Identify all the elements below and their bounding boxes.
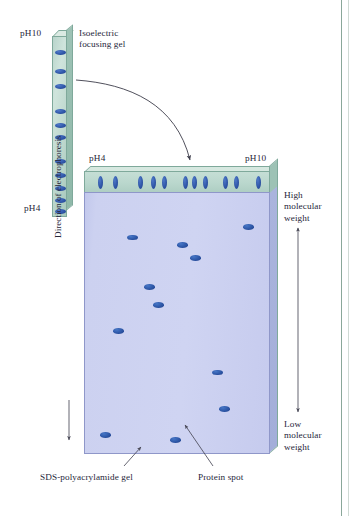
page-edge-rule-outer (341, 0, 342, 516)
protein-spot (100, 432, 111, 438)
direction-of-electrophoresis-label: Direction of electrophoresis (53, 58, 63, 238)
sds-gel-side-face (269, 158, 278, 454)
ief-lane-band (138, 176, 143, 189)
sds-gel-ph10-label: pH10 (245, 153, 266, 163)
ief-lane-band (223, 176, 228, 189)
ief-lane-band (203, 176, 208, 189)
ief-band (55, 50, 66, 55)
protein-spot (113, 328, 124, 334)
sds-gel-separation-area (84, 192, 270, 454)
protein-spot (127, 235, 138, 241)
ief-strip-side-face (66, 24, 73, 211)
ief-lane-band (98, 176, 103, 189)
ief-lane-band (113, 176, 118, 189)
high-molecular-weight-label: High molecular weight (284, 190, 322, 224)
transfer-curved-arrow (76, 80, 190, 160)
protein-spot (144, 284, 155, 290)
ief-lane-band (234, 176, 239, 189)
sds-gel-ief-lane (84, 171, 270, 193)
ief-lane-band (192, 176, 197, 189)
protein-spot (243, 224, 254, 230)
protein-spot (190, 255, 201, 261)
low-molecular-weight-label: Low molecular weight (284, 419, 322, 453)
sds-polyacrylamide-gel-label: SDS-polyacrylamide gel (40, 472, 133, 483)
protein-spot (212, 370, 223, 376)
sds-gel-ph4-label: pH4 (89, 153, 105, 163)
isoelectric-focusing-gel-label: Isoelectric focusing gel (79, 28, 125, 51)
protein-spot-label: Protein spot (198, 472, 243, 483)
ief-lane-band (162, 176, 167, 189)
protein-spot (219, 406, 230, 412)
page-edge-rule-inner (348, 0, 349, 516)
ief-ph4-label: pH4 (24, 203, 40, 213)
sds-polyacrylamide-gel-slab (84, 166, 280, 461)
protein-spot (177, 242, 188, 248)
ief-ph10-label: pH10 (20, 28, 41, 38)
two-dimensional-gel-electrophoresis-figure: pH10 pH4 Isoelectric focusing gel pH4 pH… (0, 0, 351, 516)
ief-lane-band (151, 176, 156, 189)
protein-spot (153, 302, 164, 308)
ief-lane-band (183, 176, 188, 189)
ief-lane-band (256, 176, 261, 189)
protein-spot (170, 437, 181, 443)
